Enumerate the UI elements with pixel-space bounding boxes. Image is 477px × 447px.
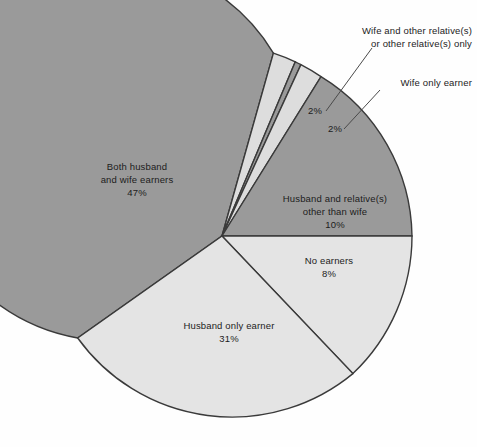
pie-chart-figure: Both husband and wife earners 47% Wife a… (0, 0, 477, 447)
pie-chart-svg (0, 0, 477, 447)
